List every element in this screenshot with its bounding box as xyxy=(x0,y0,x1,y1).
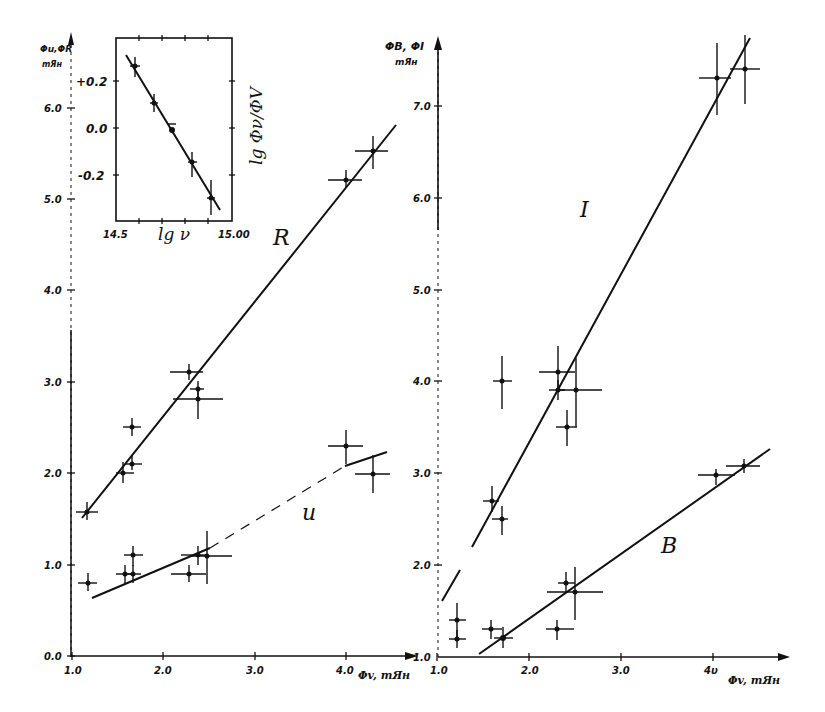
left-y-ticks: 0.0 1.0 2.0 3.0 4.0 5.0 6.0 Φu,ΦR mЯн xyxy=(40,44,75,662)
inset-y-tick-label: +0.2 xyxy=(76,75,107,89)
left-x-tick-label: 3.0 xyxy=(246,665,264,676)
left-y-tick-label: 4.0 xyxy=(43,285,62,296)
left-y-tick-label: 0.0 xyxy=(44,651,62,662)
inset-x-tick-label: 14.5 xyxy=(103,229,128,240)
right-y-tick-label: 7.0 xyxy=(413,101,431,112)
series-b-points xyxy=(449,459,760,648)
right-x-axis-label: Φv, mЯн xyxy=(728,674,780,687)
left-x-axis-label: Φv, mЯн xyxy=(358,669,410,682)
left-y-axis-label: Φu,ΦR xyxy=(40,44,72,54)
left-x-tick-label: 2.0 xyxy=(154,665,172,676)
right-x-tick-label: 2.0 xyxy=(521,665,539,676)
right-x-tick-label: 4υ xyxy=(703,665,718,676)
figure: 1.0 2.0 3.0 4.0 Φv, mЯн 0.0 1.0 2.0 3.0 … xyxy=(0,0,825,712)
right-y-ticks: 1.0 2.0 3.0 4.0 5.0 6.0 7.0 ΦB, ΦI mЯн xyxy=(385,40,442,663)
right-y-axis-label: ΦB, ΦI xyxy=(385,40,424,53)
series-b-fit-line xyxy=(479,449,770,654)
series-u-points xyxy=(78,430,390,591)
right-panel: 1.0 2.0 3.0 4υ Φv, mЯн 1.0 2.0 3.0 4.0 5… xyxy=(385,35,790,687)
right-y-tick-label: 6.0 xyxy=(413,193,431,204)
series-u-fit-line-end xyxy=(345,452,387,466)
inset-y-tick-label: 0.0 xyxy=(86,122,107,136)
inset-y-axis-label: lg Φν/ΦV xyxy=(246,85,266,165)
right-y-tick-label: 4.0 xyxy=(412,376,431,387)
left-y-axis-unit: mЯн xyxy=(42,60,62,69)
right-x-arrow-icon xyxy=(778,653,790,661)
series-u-label: u xyxy=(302,500,316,525)
inset-y-tick-label: -0.2 xyxy=(78,169,104,183)
left-x-tick-label: 1.0 xyxy=(64,665,82,676)
right-y-tick-label: 1.0 xyxy=(413,652,431,663)
right-y-axis-unit: mЯн xyxy=(395,57,418,67)
series-r-fit-line xyxy=(82,125,396,518)
series-r-label: R xyxy=(272,225,290,250)
left-panel: 1.0 2.0 3.0 4.0 Φv, mЯн 0.0 1.0 2.0 3.0 … xyxy=(40,32,418,682)
right-y-tick-label: 2.0 xyxy=(413,560,431,571)
series-u-fit-line-dashed xyxy=(210,466,345,548)
inset-x-axis-label: lg ν xyxy=(158,224,190,244)
left-y-tick-label: 1.0 xyxy=(44,560,62,571)
series-i-fit-line-lower xyxy=(442,570,460,601)
right-x-tick-label: 1.0 xyxy=(430,665,448,676)
inset-chart: +0.2 0.0 -0.2 14.5 15.00 lg ν lg Φν/ΦV xyxy=(76,35,266,244)
right-y-arrow-icon xyxy=(434,36,442,50)
left-y-tick-label: 5.0 xyxy=(44,194,62,205)
series-i-label: I xyxy=(579,197,590,222)
right-y-tick-label: 5.0 xyxy=(413,285,431,296)
right-x-ticks: 1.0 2.0 3.0 4υ Φv, mЯн xyxy=(430,653,780,687)
left-y-tick-label: 2.0 xyxy=(44,468,62,479)
left-y-tick-label: 3.0 xyxy=(44,377,62,388)
right-x-tick-label: 3.0 xyxy=(612,665,630,676)
inset-x-tick-label: 15.00 xyxy=(218,229,250,240)
left-x-tick-label: 4.0 xyxy=(335,665,354,676)
series-i-points xyxy=(483,35,760,535)
series-i-fit-line xyxy=(472,38,750,547)
left-y-tick-label: 6.0 xyxy=(44,103,62,114)
right-y-tick-label: 3.0 xyxy=(413,468,431,479)
series-b-label: B xyxy=(660,533,677,558)
